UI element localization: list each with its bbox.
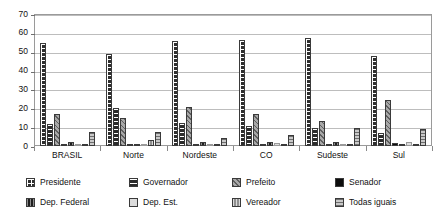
y-tick-label: 70 [19, 10, 28, 19]
legend-row: Dep. FederalDep. Est.VereadorTodas iguai… [26, 192, 438, 212]
x-tick-label: Sudeste [299, 150, 365, 166]
legend-item[interactable]: Dep. Federal [26, 198, 129, 207]
bar [113, 108, 119, 146]
bar [120, 118, 126, 146]
bar-group [299, 14, 365, 146]
bar [40, 43, 46, 146]
y-tick-label: 10 [19, 123, 28, 132]
y-tick-label: 60 [19, 28, 28, 37]
vereador-swatch-icon [232, 198, 241, 207]
bars-layer [34, 14, 432, 146]
presidente-swatch-icon [26, 178, 35, 187]
x-tick-label: Sul [366, 150, 432, 166]
y-tick-label: 50 [19, 47, 28, 56]
bar-chart: 706050403020100 BRASILNorteNordesteCOSud… [0, 0, 444, 222]
legend-label: Senador [349, 178, 381, 187]
x-tick-label: Nordeste [167, 150, 233, 166]
bar [246, 126, 252, 146]
legend-label: Todas iguais [349, 198, 396, 207]
bar [172, 41, 178, 146]
legend-label: Governador [143, 178, 188, 187]
x-tick-label: BRASIL [34, 150, 100, 166]
bar [186, 107, 192, 146]
y-tick-label: 30 [19, 85, 28, 94]
bar [354, 128, 360, 146]
legend-item[interactable]: Prefeito [232, 178, 335, 187]
bar [89, 132, 95, 146]
bar [239, 40, 245, 146]
legend-label: Presidente [40, 178, 81, 187]
x-axis: BRASILNorteNordesteCOSudesteSul [34, 150, 432, 166]
legend-item[interactable]: Governador [129, 178, 232, 187]
legend-label: Prefeito [246, 178, 275, 187]
prefeito-swatch-icon [232, 178, 241, 187]
bar [420, 129, 426, 146]
bar [54, 114, 60, 146]
bar-group [366, 14, 432, 146]
x-tick-label: Norte [100, 150, 166, 166]
bar [155, 132, 161, 146]
legend-item[interactable]: Vereador [232, 198, 335, 207]
x-tick-label: CO [233, 150, 299, 166]
bar [106, 54, 112, 146]
bar [312, 128, 318, 146]
bar [221, 138, 227, 146]
legend-item[interactable]: Dep. Est. [129, 198, 232, 207]
bar [319, 121, 325, 146]
legend-label: Vereador [246, 198, 281, 207]
x-tick-mark [432, 146, 433, 151]
bar [288, 135, 294, 146]
legend-row: PresidenteGovernadorPrefeitoSenador [26, 172, 438, 192]
bar [47, 124, 53, 146]
dep-federal-swatch-icon [26, 198, 35, 207]
legend-label: Dep. Federal [40, 198, 89, 207]
bar [385, 100, 391, 146]
governador-swatch-icon [129, 178, 138, 187]
bar-group [100, 14, 166, 146]
bar-group [34, 14, 100, 146]
bar [371, 56, 377, 147]
bar [253, 114, 259, 146]
legend-item[interactable]: Presidente [26, 178, 129, 187]
y-axis: 706050403020100 [0, 0, 34, 148]
bar [378, 133, 384, 146]
y-tick-label: 20 [19, 104, 28, 113]
legend-label: Dep. Est. [143, 198, 178, 207]
bar [179, 123, 185, 146]
y-tick-label: 40 [19, 66, 28, 75]
bar-group [167, 14, 233, 146]
senador-swatch-icon [335, 178, 344, 187]
y-tick-label: 0 [23, 142, 28, 151]
bar-group [233, 14, 299, 146]
chart-legend: PresidenteGovernadorPrefeitoSenadorDep. … [26, 172, 438, 216]
legend-item[interactable]: Todas iguais [335, 198, 438, 207]
bar [305, 38, 311, 146]
todas-iguais-swatch-icon [335, 198, 344, 207]
dep-est-swatch-icon [129, 198, 138, 207]
legend-item[interactable]: Senador [335, 178, 438, 187]
